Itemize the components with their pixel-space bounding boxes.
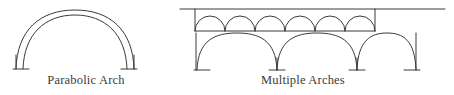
caption-parabolic-arch: Parabolic Arch [0, 74, 172, 87]
parabolic-arch-inner-curve [23, 15, 127, 69]
caption-multiple-arches: Multiple Arches [228, 74, 378, 87]
upper-small-arch [315, 16, 345, 31]
upper-small-arch [195, 16, 225, 31]
lower-large-arch [357, 33, 416, 70]
lower-large-arch [277, 33, 357, 70]
upper-small-arch [285, 16, 315, 31]
upper-small-arch [225, 16, 255, 31]
upper-small-arch [345, 16, 375, 31]
lower-large-arch [197, 33, 277, 70]
parabolic-arch-outer-curve [16, 10, 134, 69]
upper-small-arch [255, 16, 285, 31]
diagram-page: Parabolic Arch Multiple Arches [0, 0, 454, 95]
